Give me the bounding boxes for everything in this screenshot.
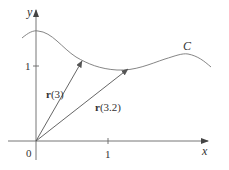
curve-label-c: C [183,39,192,53]
origin-label: 0 [26,147,32,159]
vector-function-diagram: y x 0 1 1 C r(3) r(3.2) [0,0,229,170]
vector-r3 [36,61,82,141]
vector-r3-2-label: r(3.2) [95,101,121,114]
vector-r3-label-arg: (3) [51,88,64,101]
y-tick-label-1: 1 [25,60,31,72]
x-tick-label-1: 1 [105,148,111,160]
y-axis-label: y [26,5,33,19]
vector-r3-label: r(3) [46,88,64,101]
x-axis-label: x [201,144,208,158]
vector-r3-2-label-arg: (3.2) [100,101,121,114]
